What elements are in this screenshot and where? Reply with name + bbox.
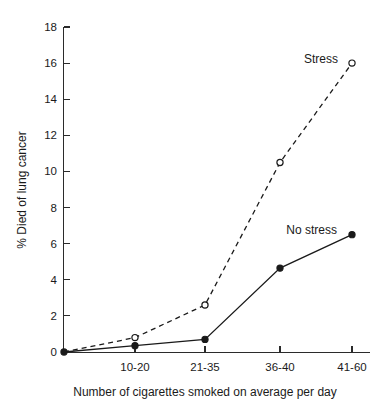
data-point-stress: [132, 335, 138, 341]
y-tick-label: 6: [51, 238, 57, 250]
y-axis-title: % Died of lung cancer: [15, 131, 29, 248]
series-markers-stress: [132, 60, 355, 341]
data-point-no-stress: [277, 265, 283, 271]
y-tick-label: 12: [44, 129, 57, 141]
data-point-no-stress: [132, 343, 138, 349]
data-point-stress: [202, 302, 208, 308]
series-label-no-stress: No stress: [286, 223, 337, 237]
y-tick-label: 16: [44, 57, 57, 69]
x-tick-labels: 10-20 21-35 36-40 41-60: [120, 361, 366, 373]
y-tick-label: 10: [44, 165, 57, 177]
data-point-no-stress: [349, 232, 355, 238]
data-point-no-stress: [202, 336, 208, 342]
y-tick-label: 14: [44, 93, 57, 105]
data-point-stress: [349, 60, 355, 66]
y-tick-label: 0: [51, 346, 57, 358]
lung-cancer-line-chart: 18 16 14 12 10 8 6 4 2 0 10-20 21-35 36-…: [0, 0, 386, 412]
x-tick-label: 21-35: [190, 361, 219, 373]
y-tick-label: 8: [51, 202, 57, 214]
series-label-stress: Stress: [304, 52, 338, 66]
y-tick-label: 4: [51, 274, 58, 286]
y-tick-label: 18: [44, 21, 57, 33]
series-line-no-stress: [64, 235, 352, 352]
data-point-origin: [61, 349, 67, 355]
data-point-stress: [277, 159, 283, 165]
x-axis-ticks: [135, 346, 352, 353]
x-tick-label: 10-20: [120, 361, 149, 373]
x-axis-title: Number of cigarettes smoked on average p…: [73, 385, 336, 399]
series-line-stress: [64, 63, 352, 352]
y-axis-ticks: [64, 27, 71, 352]
x-tick-label: 36-40: [265, 361, 294, 373]
y-tick-label: 2: [51, 310, 57, 322]
chart-canvas: 18 16 14 12 10 8 6 4 2 0 10-20 21-35 36-…: [0, 0, 386, 412]
y-tick-labels: 18 16 14 12 10 8 6 4 2 0: [44, 21, 57, 358]
x-tick-label: 41-60: [337, 361, 366, 373]
